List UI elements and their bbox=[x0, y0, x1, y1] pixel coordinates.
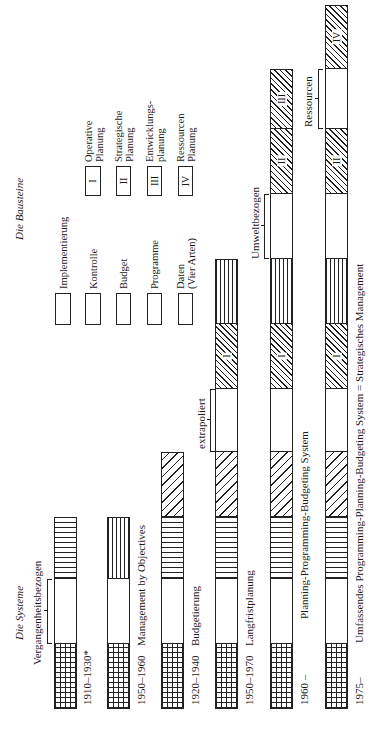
segment-daten-umweltbezogen bbox=[270, 193, 293, 259]
title-building-blocks: Die Bausteine bbox=[13, 178, 25, 240]
system-period: 1920–1940 bbox=[190, 656, 201, 706]
legend-swatch-budget bbox=[116, 293, 131, 325]
legend-swatch-implementierung bbox=[55, 293, 71, 325]
legend-swatch-strategische-planung: II bbox=[116, 166, 131, 196]
segment-kontrolle bbox=[325, 516, 348, 579]
segment-kontrolle bbox=[215, 516, 238, 579]
legend-swatch-operative-planung: I bbox=[85, 166, 101, 196]
segment-kontrolle bbox=[270, 516, 293, 579]
legend-label-planung-4: Planung bbox=[186, 128, 197, 162]
legend-swatch-programme bbox=[147, 293, 162, 325]
segment-implementierung bbox=[325, 643, 348, 709]
segment-daten-extrapoliert bbox=[270, 388, 293, 452]
legend-label-operative: Operative bbox=[83, 121, 94, 162]
legend-swatch-daten bbox=[178, 293, 193, 325]
brace-ressourcen bbox=[318, 69, 323, 129]
segment-daten bbox=[161, 578, 184, 644]
legend-label-planung-3: planung bbox=[155, 128, 166, 162]
segment-daten-umweltbezogen bbox=[325, 193, 348, 259]
segment-daten-extrapoliert bbox=[215, 388, 238, 452]
segment-daten bbox=[215, 578, 238, 644]
segment-implementierung bbox=[54, 643, 77, 709]
system-period: 1950–1960 bbox=[136, 656, 147, 706]
label-umweltbezogen: Umweltbezogen bbox=[250, 187, 261, 259]
segment-strategische-planung: II bbox=[270, 128, 293, 194]
system-name: Budgetierung bbox=[190, 586, 201, 646]
legend-label-kontrolle: Kontrolle bbox=[88, 249, 99, 289]
diagram-canvas: Die Systeme Die Bausteine Vergangenheits… bbox=[0, 0, 378, 729]
segment-budget bbox=[325, 451, 348, 517]
segment-operative-planung: I bbox=[325, 323, 348, 389]
legend-label-strategische: Strategische bbox=[113, 111, 124, 162]
legend-label-planung-2: Planung bbox=[124, 128, 135, 162]
legend-label-budget: Budget bbox=[118, 259, 129, 289]
segment-daten bbox=[270, 578, 293, 644]
segment-programme bbox=[215, 259, 238, 324]
segment-ressourcen-planung: IV bbox=[325, 5, 348, 69]
segment-programme bbox=[270, 258, 293, 324]
roman-numeral: II bbox=[332, 156, 342, 167]
segment-budget bbox=[215, 451, 238, 517]
segment-operative-planung: I bbox=[270, 323, 293, 389]
label-past-related: Vergangenheitsbezogen bbox=[32, 561, 43, 665]
segment-budget bbox=[270, 451, 293, 517]
segment-programme bbox=[107, 517, 130, 579]
roman-numeral: IV bbox=[181, 174, 191, 189]
system-period: 1910–1930* bbox=[82, 650, 93, 705]
segment-entwicklungsplanung: III bbox=[270, 69, 293, 129]
label-ressourcen: Ressourcen bbox=[303, 76, 314, 127]
legend-swatch-ressourcen-planung: IV bbox=[178, 166, 193, 196]
segment-daten bbox=[325, 578, 348, 644]
segment-programme bbox=[325, 258, 348, 324]
legend-label-planung-1: Planung bbox=[94, 128, 105, 162]
legend-label-vier-arten: (Vier Arten) bbox=[186, 238, 197, 289]
system-name: Planning-Programming-Budgeting System bbox=[299, 431, 310, 619]
roman-numeral: II bbox=[277, 156, 287, 167]
brace-past-related bbox=[47, 579, 52, 644]
segment-operative-planung: I bbox=[215, 323, 238, 389]
legend-label-daten: Daten bbox=[175, 264, 186, 289]
segment-implementierung bbox=[107, 643, 130, 709]
segment-daten-ressourcen bbox=[325, 68, 348, 129]
legend-label-programme: Programme bbox=[149, 240, 160, 289]
legend-swatch-entwicklungsplanung: III bbox=[147, 166, 162, 196]
segment-implementierung bbox=[161, 643, 184, 709]
segment-strategische-planung: II bbox=[325, 128, 348, 194]
roman-numeral: IV bbox=[332, 30, 342, 45]
system-period: 1975– bbox=[354, 678, 365, 706]
system-name: Umfassendes Programming-Planning-Budgeti… bbox=[354, 264, 365, 643]
roman-numeral: I bbox=[88, 177, 98, 184]
label-extrapoliert: extrapoliert bbox=[196, 398, 207, 449]
segment-daten bbox=[54, 578, 77, 644]
roman-numeral: II bbox=[119, 176, 129, 187]
roman-numeral: I bbox=[332, 352, 342, 359]
legend-label-entwicklungs: Entwicklungs- bbox=[144, 101, 155, 162]
system-name: Management by Objectives bbox=[136, 525, 147, 646]
roman-numeral: III bbox=[150, 174, 160, 188]
segment-implementierung bbox=[270, 643, 293, 709]
segment-daten-extrapoliert bbox=[325, 388, 348, 452]
segment-budget bbox=[161, 452, 184, 517]
segment-implementierung bbox=[215, 643, 238, 709]
system-name: Langfristplanung bbox=[244, 570, 255, 646]
roman-numeral: III bbox=[277, 92, 287, 106]
legend-label-ressourcen: Ressourcen bbox=[175, 114, 186, 162]
system-period: 1960 – bbox=[299, 675, 310, 705]
roman-numeral: I bbox=[222, 352, 232, 359]
legend-swatch-kontrolle bbox=[85, 293, 101, 325]
segment-daten bbox=[107, 578, 130, 644]
legend-label-implementierung: Implementierung bbox=[58, 217, 69, 289]
brace-umweltbezogen bbox=[264, 194, 269, 259]
roman-numeral: I bbox=[277, 352, 287, 359]
system-period: 1950–1970 bbox=[244, 656, 255, 706]
title-systems: Die Systeme bbox=[13, 586, 25, 640]
segment-kontrolle bbox=[161, 516, 184, 579]
segment-kontrolle bbox=[54, 517, 77, 579]
